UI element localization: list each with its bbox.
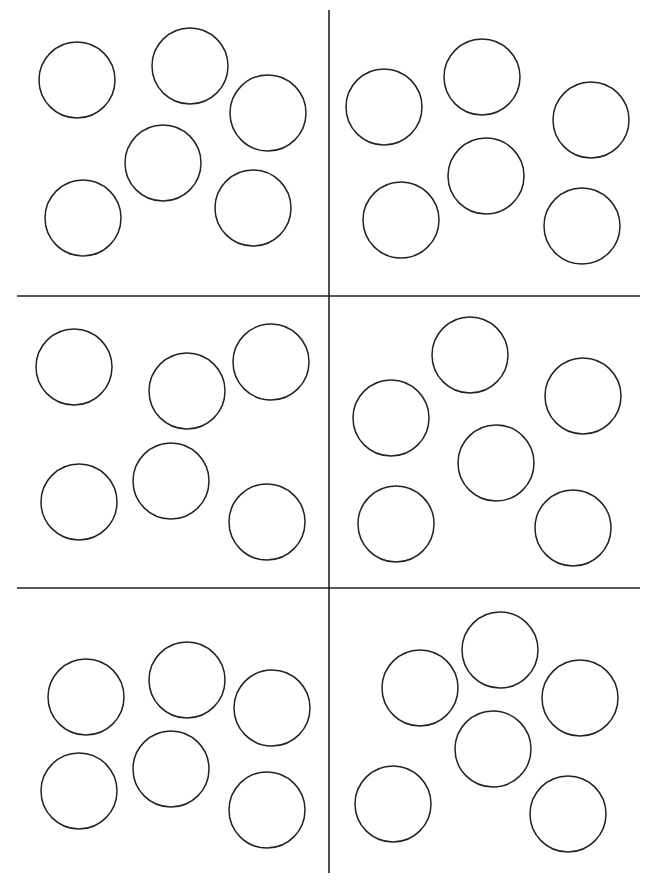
circle-shape xyxy=(448,138,524,214)
circle-shape xyxy=(233,324,309,400)
circle-shape xyxy=(353,380,429,456)
circle-shape xyxy=(133,731,209,807)
circle-shape xyxy=(41,464,117,540)
circle-shape xyxy=(125,125,201,201)
circle-shape xyxy=(530,776,606,852)
grid-lines xyxy=(17,10,640,873)
circle-shape xyxy=(544,188,620,264)
circle-shape xyxy=(358,486,434,562)
circle-shape xyxy=(553,82,629,158)
circle-shape xyxy=(48,659,124,735)
circle-shape xyxy=(234,670,310,746)
circle-panels xyxy=(36,28,629,852)
circle-shape xyxy=(458,425,534,501)
panel-bottom-right xyxy=(355,612,618,852)
circle-shape xyxy=(462,612,538,688)
circle-shape xyxy=(545,358,621,434)
panel-middle-right xyxy=(353,317,621,566)
circle-shape xyxy=(455,711,531,787)
circle-shape xyxy=(39,42,115,118)
circle-shape xyxy=(229,484,305,560)
circle-shape xyxy=(152,28,228,104)
circle-shape xyxy=(432,317,508,393)
circle-shape xyxy=(363,182,439,258)
circle-shape xyxy=(215,170,291,246)
circle-shape xyxy=(229,772,305,848)
circle-shape xyxy=(41,753,117,829)
circle-shape xyxy=(149,642,225,718)
circle-shape xyxy=(535,490,611,566)
circle-shape xyxy=(542,660,618,736)
worksheet-canvas xyxy=(0,0,656,887)
panel-middle-left xyxy=(36,324,309,560)
circle-shape xyxy=(133,443,209,519)
circle-shape xyxy=(230,75,306,151)
panel-bottom-left xyxy=(41,642,310,848)
panel-top-right xyxy=(346,39,629,264)
circle-shape xyxy=(382,650,458,726)
circle-shape xyxy=(444,39,520,115)
circle-shape xyxy=(355,766,431,842)
panel-top-left xyxy=(39,28,306,256)
circle-shape xyxy=(149,353,225,429)
circle-shape xyxy=(45,180,121,256)
circle-shape xyxy=(346,69,422,145)
circle-shape xyxy=(36,329,112,405)
